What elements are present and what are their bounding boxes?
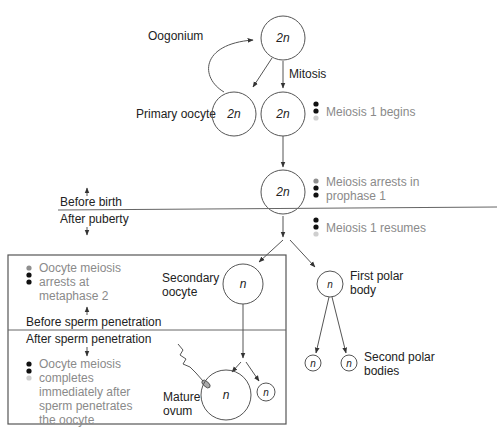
oogonium-label: Oogonium <box>148 29 203 43</box>
second-polar-a-ploidy: n <box>310 358 316 369</box>
second-polar-b-ploidy: n <box>346 358 352 369</box>
oogonium-to-primary-arrow <box>253 58 272 87</box>
dots-icon-meiosis-resumes <box>313 217 318 236</box>
mitosis-label: Mitosis <box>289 67 326 81</box>
primary-oocyte-label: Primary oocyte <box>136 107 216 121</box>
to-ovum-polar-body-arrow <box>246 362 259 381</box>
dots-icon-arrest-metaphase <box>26 265 31 284</box>
secondary-oocyte-cell: n <box>223 264 263 304</box>
completes-note-line1: Oocyte meiosis <box>39 357 121 371</box>
second-polar-bodies-label-line1: Second polar <box>364 350 435 364</box>
oogenesis-diagram: 2n Oogonium Mitosis Primary oocyte 2n 2n… <box>0 0 497 435</box>
completes-note-line5: the oocyte <box>39 413 95 427</box>
birth-puberty-divider <box>58 207 497 210</box>
first-polar-body-label-line1: First polar <box>350 269 403 283</box>
mature-ovum-ploidy: n <box>223 388 230 402</box>
arrest-metaphase-note-line2: arrests at <box>39 275 90 289</box>
to-mature-ovum-arrow <box>232 362 241 372</box>
mature-ovum-cell: n <box>201 370 251 420</box>
primary-oocyte-ploidy: 2n <box>226 107 241 121</box>
meiosis-resumes-note: Meiosis 1 resumes <box>326 221 426 235</box>
arrest-metaphase-note-line3: metaphase 2 <box>39 289 109 303</box>
meiosis-arrests-note-line1: Meiosis arrests in <box>326 175 419 189</box>
secondary-oocyte-label-line2: oocyte <box>162 285 198 299</box>
dots-icon-meiosis-completes <box>26 361 31 380</box>
mature-ovum-label-line1: Mature <box>163 390 201 404</box>
first-polar-body-ploidy: n <box>327 279 333 290</box>
arrested-cell: 2n <box>261 170 305 214</box>
second-polar-body-b: n <box>341 355 357 371</box>
to-secondary-oocyte-arrow <box>259 240 283 262</box>
second-polar-body-a: n <box>305 355 321 371</box>
secondary-oocyte-label-line1: Secondary <box>162 271 219 285</box>
to-second-polar-b-arrow <box>332 297 346 353</box>
mitosis-product-ploidy: 2n <box>275 107 290 121</box>
second-polar-bodies-label-line2: bodies <box>364 364 399 378</box>
primary-oocyte-cell: 2n <box>212 92 256 136</box>
first-polar-body-label-line2: body <box>350 283 376 297</box>
meiosis-begins-note: Meiosis 1 begins <box>326 105 415 119</box>
completes-note-line2: completes <box>39 371 94 385</box>
completes-note-line4: sperm penetrates <box>39 399 132 413</box>
to-second-polar-a-arrow <box>316 297 329 353</box>
completes-note-line3: immediately after <box>39 385 130 399</box>
before-birth-label: Before birth <box>60 195 122 209</box>
self-renewal-arrow <box>209 40 253 92</box>
oogonium-ploidy: 2n <box>275 31 290 45</box>
dots-icon-meiosis-arrests <box>313 178 318 197</box>
mature-ovum-label-line2: ovum <box>163 404 192 418</box>
dots-icon-meiosis-begins <box>313 101 318 120</box>
meiosis-arrests-note-line2: prophase 1 <box>326 189 386 203</box>
sperm-tail <box>178 344 203 381</box>
oogonium-cell: 2n <box>261 16 305 60</box>
ovum-polar-body-ploidy: n <box>263 387 269 398</box>
ovum-polar-body-cell: n <box>257 383 275 401</box>
arrested-ploidy: 2n <box>275 185 290 199</box>
arrest-metaphase-note-line1: Oocyte meiosis <box>39 261 121 275</box>
to-first-polar-body-arrow <box>290 240 315 267</box>
after-puberty-label: After puberty <box>60 212 129 226</box>
first-polar-body-cell: n <box>317 271 343 297</box>
after-sperm-label: After sperm penetration <box>26 332 151 346</box>
before-sperm-label: Before sperm penetration <box>26 315 161 329</box>
secondary-oocyte-ploidy: n <box>240 277 247 291</box>
mitosis-product-cell: 2n <box>261 92 305 136</box>
